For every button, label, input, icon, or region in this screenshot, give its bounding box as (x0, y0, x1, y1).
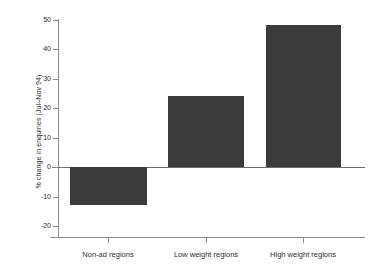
bar (168, 96, 244, 167)
x-axis-tick (303, 237, 304, 243)
y-axis-tick-label: -20 (11, 222, 51, 229)
y-axis-tick-label: 0 (11, 163, 51, 170)
y-axis-tick-label: 50 (11, 16, 51, 23)
y-axis-tick (53, 226, 58, 227)
x-axis-category-label: High weight regions (243, 250, 363, 259)
y-axis-tick (53, 49, 58, 50)
bar-chart: % change in enquiries (Jul–Nov 94) 50403… (0, 0, 373, 276)
bar (266, 25, 341, 167)
y-axis-tick (53, 20, 58, 21)
y-axis-tick-label: 20 (11, 104, 51, 111)
y-axis-tick-label: 10 (11, 134, 51, 141)
y-axis-tick-label: 40 (11, 45, 51, 52)
y-axis-tick-label: -10 (11, 193, 51, 200)
y-axis-tick (53, 167, 58, 168)
y-axis-tick (53, 138, 58, 139)
bar (70, 167, 147, 205)
x-axis-spine (50, 237, 365, 238)
y-axis-tick-label: 30 (11, 75, 51, 82)
y-axis-tick (53, 108, 58, 109)
y-axis-tick (53, 79, 58, 80)
y-axis-tick (53, 197, 58, 198)
x-axis-tick (206, 237, 207, 243)
y-axis-spine (58, 19, 59, 238)
x-axis-tick (108, 237, 109, 243)
